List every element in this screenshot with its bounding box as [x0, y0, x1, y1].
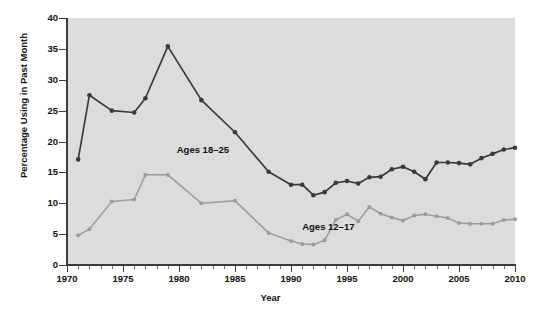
data-point	[233, 130, 238, 135]
data-point	[401, 219, 405, 223]
data-point	[412, 214, 416, 218]
data-point	[379, 212, 383, 216]
data-point	[401, 165, 406, 170]
data-point	[267, 231, 271, 235]
data-point	[87, 93, 92, 98]
data-point	[345, 212, 349, 216]
data-point	[435, 214, 439, 218]
data-point	[311, 243, 315, 247]
data-point	[502, 147, 507, 152]
data-point	[367, 175, 372, 180]
data-point	[143, 96, 148, 101]
data-point	[76, 157, 81, 162]
data-point	[199, 98, 204, 103]
data-point	[446, 160, 451, 165]
data-point	[479, 222, 483, 226]
data-point	[390, 167, 395, 172]
series-label-ages-18-25: Ages 18–25	[177, 145, 229, 155]
data-point	[199, 201, 203, 205]
data-point	[345, 179, 350, 184]
data-point	[468, 222, 472, 226]
data-point	[110, 108, 115, 113]
data-point	[143, 173, 147, 177]
series-lines	[0, 0, 541, 316]
series-label-ages-12-17: Ages 12–17	[302, 222, 354, 232]
data-point	[289, 182, 294, 187]
data-point	[423, 212, 427, 216]
data-point	[166, 173, 170, 177]
data-point	[491, 222, 495, 226]
x-axis-title: Year	[0, 292, 541, 303]
data-point	[300, 182, 305, 187]
data-point	[390, 215, 394, 219]
data-point	[513, 217, 517, 221]
data-point	[323, 238, 327, 242]
chart-figure: 0510152025303540 19701975198019851990199…	[0, 0, 541, 316]
data-point	[166, 44, 171, 49]
data-point	[334, 181, 339, 186]
data-point	[233, 199, 237, 203]
data-point	[423, 177, 428, 182]
data-point	[378, 174, 383, 179]
data-point	[412, 169, 417, 174]
data-point	[132, 198, 136, 202]
y-axis-title: Percentage Using in Past Month	[18, 26, 29, 186]
data-point	[356, 181, 361, 186]
data-point	[76, 233, 80, 237]
data-point	[457, 221, 461, 225]
data-point	[502, 218, 506, 222]
data-point	[468, 162, 473, 167]
data-point	[434, 160, 439, 165]
data-point	[132, 110, 137, 115]
data-point	[457, 161, 462, 166]
data-point	[490, 152, 495, 157]
data-point	[479, 156, 484, 161]
data-point	[110, 199, 114, 203]
data-point	[367, 205, 371, 209]
data-point	[446, 216, 450, 220]
series-line-0	[78, 46, 515, 195]
data-point	[289, 239, 293, 243]
data-point	[322, 190, 327, 195]
data-point	[300, 242, 304, 246]
data-point	[87, 227, 91, 231]
data-point	[356, 219, 360, 223]
data-point	[513, 145, 518, 150]
data-point	[311, 193, 316, 198]
data-point	[266, 169, 271, 174]
